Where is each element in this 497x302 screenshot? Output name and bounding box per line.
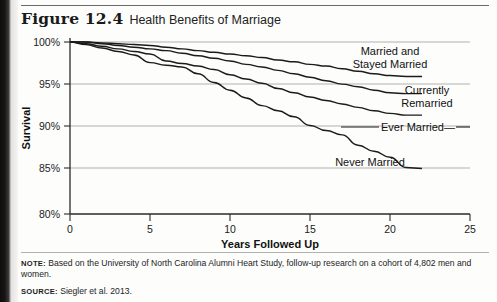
y-axis-title: Survival	[20, 107, 32, 150]
series-label-ever-married: Ever Married—	[381, 121, 455, 133]
y-tick-label-100: 100%	[33, 36, 60, 48]
figure-note: NOTE: Based on the University of North C…	[21, 258, 483, 281]
x-tick-label-25: 25	[464, 223, 476, 235]
chart-svg: 100% 95% 90% 85% 80% 0 5 10 15 20 25 Yea…	[0, 0, 497, 250]
source-text: Siegler et al. 2013.	[58, 286, 132, 296]
note-label: NOTE:	[21, 259, 46, 268]
y-ticks	[64, 42, 70, 214]
series-label-currently-remarried-line1: Currently	[405, 84, 450, 96]
note-divider-rule	[21, 252, 489, 253]
x-ticks	[70, 214, 470, 221]
y-tick-label-80: 80%	[39, 208, 60, 220]
y-tick-label-85: 85%	[39, 162, 60, 174]
series-label-currently-remarried-line2: Remarried	[401, 97, 452, 109]
x-tick-label-20: 20	[384, 223, 396, 235]
figure-page: Figure 12.4Health Benefits of Marriage	[0, 0, 497, 302]
x-tick-label-10: 10	[224, 223, 236, 235]
y-tick-label-95: 95%	[39, 78, 60, 90]
series-label-married-and-stayed-married-line1: Married and	[361, 45, 420, 57]
series-label-married-and-stayed-married-line2: Stayed Married	[353, 58, 428, 70]
y-tick-label-90: 90%	[39, 120, 60, 132]
x-tick-label-0: 0	[67, 223, 73, 235]
series-label-never-married: Never Married	[335, 156, 405, 168]
source-label: SOURCE:	[21, 287, 58, 296]
figure-source: SOURCE: Siegler et al. 2013.	[21, 286, 483, 297]
x-tick-label-15: 15	[304, 223, 316, 235]
note-text: Based on the University of North Carolin…	[21, 258, 471, 279]
x-tick-label-5: 5	[147, 223, 153, 235]
survival-chart: 100% 95% 90% 85% 80% 0 5 10 15 20 25 Yea…	[0, 0, 497, 302]
x-axis-title: Years Followed Up	[221, 238, 319, 250]
